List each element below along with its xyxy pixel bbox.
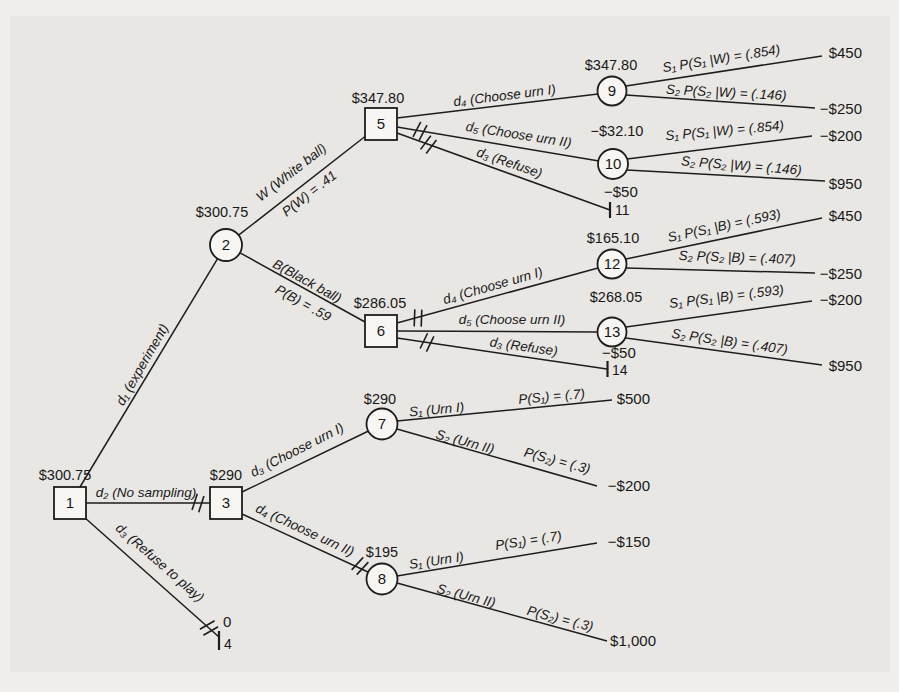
node-10-number: 10 [605,155,622,172]
node-12-value: $165.10 [587,230,639,246]
payoff-n12-s2: −$250 [820,265,862,282]
payoff-n13-s2: $950 [829,357,862,374]
payoff-n8-s2: $1,000 [610,632,656,649]
terminal-11-number: 11 [615,202,630,218]
payoff-n12-s1: $450 [829,207,862,224]
node-9-number: 9 [608,82,616,99]
node-2-number: 2 [222,236,230,253]
node-8-number: 8 [378,570,386,587]
node-13-number: 13 [604,323,621,340]
terminal-14-payoff: −$50 [602,344,636,361]
terminal-14-number: 14 [612,362,628,378]
node-5-value: $347.80 [352,90,404,106]
terminal-4-number: 4 [224,636,232,652]
node-1-number: 1 [66,494,74,511]
branch-label-d2-no-sampling: d₂ (No sampling) [96,485,196,500]
node-13-value: $268.05 [590,289,642,305]
payoff-n9-s2: −$250 [820,100,862,117]
node-12-number: 12 [604,255,621,272]
decision-tree-figure: 1 2 3 5 6 7 8 9 10 12 13 $300.75 $300.75… [0,0,899,692]
node-7-number: 7 [378,415,386,432]
payoff-n10-s1: −$200 [820,127,862,144]
node-10-value: −$32.10 [591,123,644,139]
branch-line-n6-d5 [397,331,598,332]
payoff-n7-s2: −$200 [608,477,650,494]
payoff-n13-s1: −$200 [820,291,862,308]
node-2-value: $300.75 [196,204,248,220]
node-7-value: $290 [364,391,396,407]
node-9-value: $347.80 [585,57,637,73]
payoff-n10-s2: $950 [829,175,862,192]
node-6-number: 6 [377,322,385,339]
payoff-n9-s1: $450 [829,44,862,61]
node-3-value: $290 [210,467,242,483]
payoff-n7-s1: $500 [617,390,650,407]
node-3-number: 3 [222,494,230,511]
payoff-n8-s1: −$150 [608,533,650,550]
terminal-4-payoff: 0 [223,613,231,630]
terminal-11-payoff: −$50 [604,183,638,200]
node-8-value: $195 [366,544,398,560]
node-6-value: $286.05 [354,295,406,311]
branch-label-n6-d5: d₅ (Choose urn II) [459,312,566,327]
node-1-value: $300.75 [39,467,91,483]
node-5-number: 5 [377,115,385,132]
